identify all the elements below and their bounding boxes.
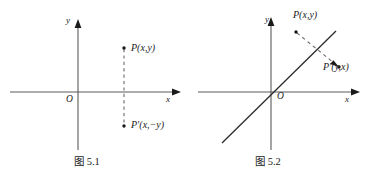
figure-caption: 图 5.1 (74, 157, 100, 168)
figure-5-2: y x O P(x,y) P′(y,x) 图 5.2 (193, 0, 385, 181)
figure-caption: 图 5.2 (255, 157, 281, 168)
point-P-marker (294, 30, 297, 33)
y-axis-label: y (265, 15, 269, 24)
reflection-connector-dashed (297, 33, 334, 63)
point-P-prime-label: P′(y,x) (323, 62, 349, 72)
figure-sheet: y x O P(x,y) P′(x,−y) 图 5.1 y x O (0, 0, 385, 181)
origin-label: O (277, 92, 284, 102)
figure-5-2-graphic (193, 0, 385, 181)
y-axis-label: y (66, 16, 70, 25)
y-axis-arrowhead (75, 19, 82, 28)
x-axis-arrowhead (351, 89, 360, 96)
point-P-marker (122, 46, 125, 49)
figure-5-1: y x O P(x,y) P′(x,−y) 图 5.1 (0, 0, 193, 181)
figure-5-1-graphic (0, 0, 193, 181)
origin-label: O (66, 95, 73, 105)
point-P-label: P(x,y) (131, 43, 155, 53)
point-P-prime-label: P′(x,−y) (131, 120, 164, 130)
point-P-prime-marker (122, 124, 125, 127)
point-P-label: P(x,y) (293, 10, 317, 20)
x-axis-arrowhead (172, 89, 181, 96)
line-y-equals-x (222, 31, 336, 143)
x-axis-label: x (166, 95, 170, 104)
x-axis-label: x (345, 95, 349, 104)
